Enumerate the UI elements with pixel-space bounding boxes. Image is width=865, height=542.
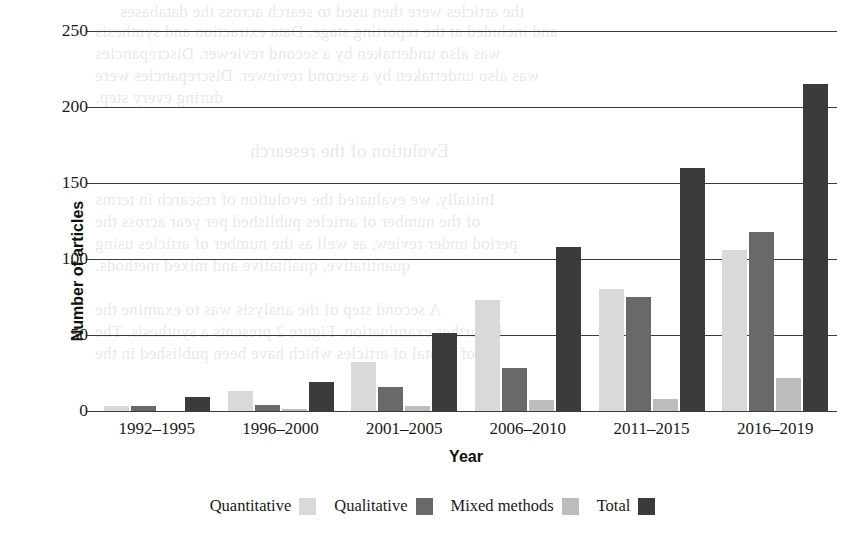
legend-item: Mixed methods <box>451 496 579 516</box>
bar-group <box>342 31 466 411</box>
bar <box>185 397 210 411</box>
bar <box>432 333 457 411</box>
bar-groups <box>95 31 837 411</box>
bar-chart: Number of articles 050100150200250 1992–… <box>0 0 865 542</box>
bar-group <box>590 31 714 411</box>
legend-swatch <box>638 498 655 515</box>
bar <box>653 399 678 411</box>
x-tick-label: 2016–2019 <box>713 419 837 439</box>
legend-label: Total <box>597 496 631 516</box>
x-axis-label: Year <box>95 448 837 466</box>
y-tick-label: 0 <box>79 400 88 421</box>
bar <box>749 232 774 411</box>
bar <box>309 382 334 411</box>
legend-swatch <box>416 498 433 515</box>
y-tick-label: 50 <box>71 324 89 345</box>
y-tick-label: 200 <box>62 96 88 117</box>
bar <box>722 250 747 411</box>
bar <box>405 406 430 411</box>
x-tick-label: 1992–1995 <box>95 419 219 439</box>
y-tick-mark <box>87 259 95 260</box>
y-tick-label: 150 <box>62 172 88 193</box>
legend-label: Quantitative <box>210 496 292 516</box>
plot-area: 050100150200250 <box>95 31 837 411</box>
y-axis-label: Number of articles <box>69 201 87 341</box>
bar <box>556 247 581 411</box>
x-tick-label: 1996–2000 <box>219 419 343 439</box>
bar <box>475 300 500 411</box>
y-tick-label: 250 <box>62 20 88 41</box>
bar <box>626 297 651 411</box>
legend-swatch <box>562 498 579 515</box>
legend-label: Mixed methods <box>451 496 554 516</box>
bar-group <box>95 31 219 411</box>
bar <box>104 406 129 411</box>
legend-item: Qualitative <box>334 496 432 516</box>
bar-group <box>466 31 590 411</box>
y-tick-mark <box>87 107 95 108</box>
legend-swatch <box>299 498 316 515</box>
y-tick-mark <box>87 31 95 32</box>
x-tick-label: 2011–2015 <box>590 419 714 439</box>
bar <box>378 387 403 411</box>
bar <box>803 84 828 411</box>
bar-group <box>219 31 343 411</box>
bar <box>680 168 705 411</box>
y-tick-label: 100 <box>62 248 88 269</box>
bar-group <box>713 31 837 411</box>
bar <box>502 368 527 411</box>
bar <box>351 362 376 411</box>
x-tick-label: 2001–2005 <box>342 419 466 439</box>
chart-legend: QuantitativeQualitativeMixed methodsTota… <box>0 496 865 516</box>
x-tick-label: 2006–2010 <box>466 419 590 439</box>
bar <box>228 391 253 411</box>
bar <box>255 405 280 411</box>
x-axis-ticks: 1992–19951996–20002001–20052006–20102011… <box>95 419 837 439</box>
legend-label: Qualitative <box>334 496 407 516</box>
bar <box>529 400 554 411</box>
bar <box>131 406 156 411</box>
y-tick-mark <box>87 183 95 184</box>
legend-item: Total <box>597 496 656 516</box>
bar <box>776 378 801 411</box>
bar <box>599 289 624 411</box>
legend-item: Quantitative <box>210 496 317 516</box>
bar <box>282 409 307 411</box>
